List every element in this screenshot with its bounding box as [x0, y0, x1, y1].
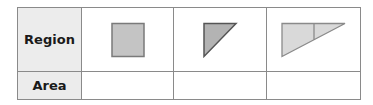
region-row: Region — [18, 8, 361, 72]
region-header: Region — [18, 8, 82, 72]
split-triangle-shape-icon — [279, 20, 349, 60]
area-cell-2 — [174, 72, 267, 100]
area-cell-1 — [82, 72, 174, 100]
region-cell-square — [82, 8, 174, 72]
region-cell-triangle — [174, 8, 267, 72]
area-cell-3 — [267, 72, 361, 100]
region-area-table: Region Area — [17, 7, 361, 100]
area-header: Area — [18, 72, 82, 100]
triangle-shape-icon — [200, 20, 240, 60]
area-row: Area — [18, 72, 361, 100]
square-shape-icon — [108, 20, 148, 60]
region-cell-split-triangle — [267, 8, 361, 72]
